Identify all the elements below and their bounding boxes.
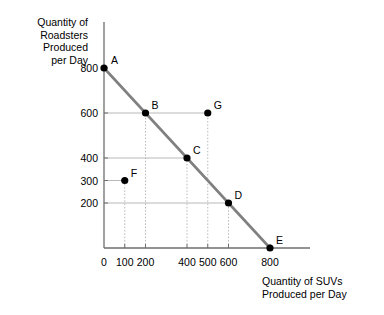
x-tick-label-200: 200: [131, 256, 161, 268]
data-point-A: [100, 64, 107, 71]
point-label-F: F: [131, 167, 137, 179]
data-point-C: [183, 154, 190, 161]
point-label-D: D: [235, 189, 243, 201]
y-tick-label-300: 300: [64, 175, 98, 187]
y-tick-label-400: 400: [64, 152, 98, 164]
data-point-E: [266, 244, 273, 251]
x-tick-label-800: 800: [255, 256, 285, 268]
y-tick-label-200: 200: [64, 197, 98, 209]
point-label-A: A: [111, 54, 118, 66]
data-point-G: [204, 109, 211, 116]
data-point-B: [142, 109, 149, 116]
axes: [104, 22, 310, 248]
point-label-G: G: [214, 99, 222, 111]
y-tick-label-600: 600: [64, 107, 98, 119]
ppf-chart: Quantity of Roadsters Produced per Day Q…: [0, 0, 384, 315]
y-tick-label-800: 800: [64, 62, 98, 74]
data-point-F: [121, 177, 128, 184]
point-label-C: C: [193, 144, 201, 156]
point-label-E: E: [276, 234, 283, 246]
data-point-D: [225, 199, 232, 206]
x-tick-label-600: 600: [214, 256, 244, 268]
point-label-B: B: [152, 99, 159, 111]
